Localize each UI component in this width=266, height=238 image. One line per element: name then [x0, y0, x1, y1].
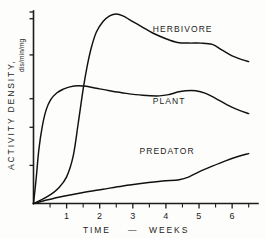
x-axis-tick-labels: 123456 — [64, 211, 235, 221]
x-axis-title-separator: — — [128, 225, 137, 235]
x-axis-title-text: TIME — [83, 225, 111, 235]
series-label-plant: PLANT — [153, 96, 186, 106]
y-axis-title: ACTIVITY DENSITY, dis/min/mg — [6, 38, 26, 170]
line-chart: 123456 HERBIVOREPLANTPREDATOR ACTIVITY D… — [0, 0, 266, 238]
series-line-plant — [34, 86, 249, 204]
y-axis-units-text: dis/min/mg — [18, 38, 26, 72]
x-axis-tick-label: 3 — [130, 211, 135, 221]
chart-figure: 123456 HERBIVOREPLANTPREDATOR ACTIVITY D… — [0, 0, 266, 238]
x-axis-tick-label: 6 — [229, 211, 234, 221]
x-axis-tick-label: 5 — [196, 211, 201, 221]
y-axis-title-text: ACTIVITY DENSITY, — [6, 59, 16, 170]
x-axis-tick-label: 1 — [64, 211, 69, 221]
series-line-herbivore — [34, 14, 249, 204]
series-label-herbivore: HERBIVORE — [153, 24, 213, 34]
x-axis-title: TIME — WEEKS — [83, 225, 189, 235]
x-axis-tick-label: 2 — [97, 211, 102, 221]
series-label-predator: PREDATOR — [139, 146, 194, 156]
x-axis-tick-label: 4 — [163, 211, 168, 221]
x-axis-unit-text: WEEKS — [149, 225, 189, 235]
series-curves — [34, 14, 249, 204]
